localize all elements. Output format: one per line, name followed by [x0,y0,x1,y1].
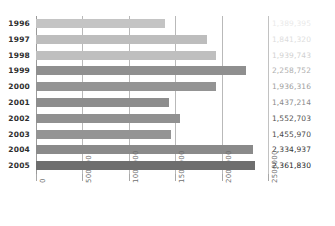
value-label-2003: 1,455,970 [272,127,311,143]
bar-2002[interactable] [36,114,180,123]
value-label-1999: 2,258,752 [272,63,311,79]
category-label-2002: 2002 [8,111,30,127]
bar-row [36,127,268,143]
category-axis-labels: 1996199719981999200020012002200320042005 [0,16,34,174]
bar-1999[interactable] [36,66,246,75]
bar-1997[interactable] [36,35,207,44]
bar-rows [36,16,268,174]
bar-2001[interactable] [36,98,169,107]
category-label-2005: 2005 [8,158,30,174]
bar-row [36,32,268,48]
category-label-1999: 1999 [8,63,30,79]
ticklabel-1000000: 1000000 [132,150,140,183]
bar-chart: 1996199719981999200020012002200320042005… [0,0,335,226]
category-label-1998: 1998 [8,48,30,64]
chart-title [24,0,224,6]
tickmark-0 [36,174,37,181]
bar-1998[interactable] [36,51,216,60]
bar-row [36,63,268,79]
bar-row [36,48,268,64]
bar-1996[interactable] [36,19,165,28]
category-label-2003: 2003 [8,127,30,143]
ticklabel-2000000: 2000000 [225,150,233,183]
category-label-1997: 1997 [8,32,30,48]
gridline-2500000 [268,16,269,174]
bar-row [36,142,268,158]
bar-row [36,79,268,95]
ticklabel-0: 0 [39,178,47,183]
tickmark-500000 [82,174,83,181]
value-label-2000: 1,936,316 [272,79,311,95]
tickmark-2500000 [268,174,269,181]
value-label-1997: 1,841,320 [272,32,311,48]
ticklabel-1500000: 1500000 [178,150,186,183]
bar-2004[interactable] [36,145,253,154]
bar-row [36,95,268,111]
category-label-2001: 2001 [8,95,30,111]
value-label-1996: 1,389,395 [272,16,311,32]
bar-row [36,111,268,127]
category-label-1996: 1996 [8,16,30,32]
category-label-2000: 2000 [8,79,30,95]
tickmark-1500000 [175,174,176,181]
ticklabel-500000: 500000 [85,155,93,183]
bar-2000[interactable] [36,82,216,91]
value-label-1998: 1,939,743 [272,48,311,64]
value-axis: 05000001000000150000020000002500000 [36,174,268,226]
bar-row [36,16,268,32]
category-label-2004: 2004 [8,142,30,158]
bar-2003[interactable] [36,130,171,139]
tickmark-2000000 [222,174,223,181]
ticklabel-2500000: 2500000 [271,150,279,183]
value-label-2002: 1,552,703 [272,111,311,127]
tickmark-1000000 [129,174,130,181]
bar-2005[interactable] [36,161,255,170]
value-labels: 1,389,3951,841,3201,939,7432,258,7521,93… [272,16,334,174]
plot-area [36,16,268,174]
bar-row [36,158,268,174]
value-label-2001: 1,437,214 [272,95,311,111]
